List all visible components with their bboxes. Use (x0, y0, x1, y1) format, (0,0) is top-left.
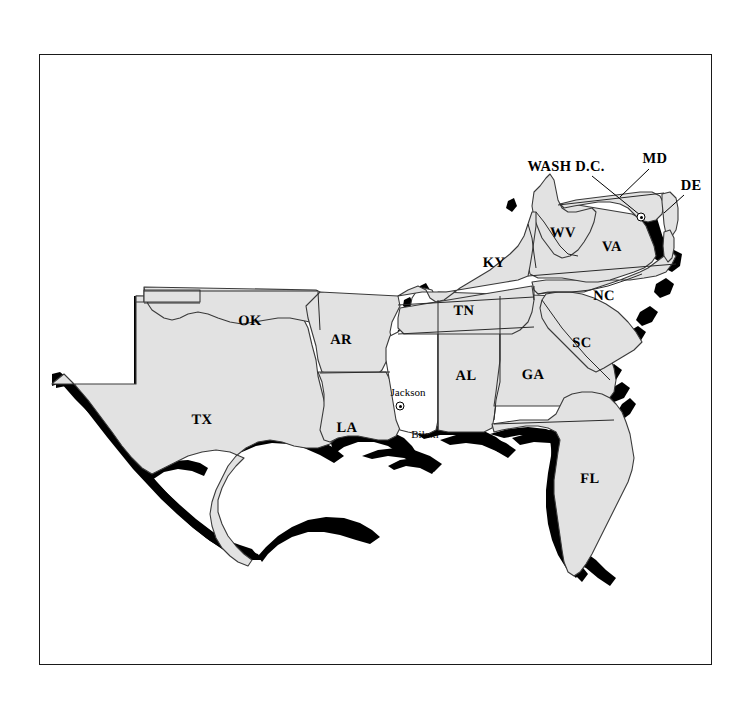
map-border-frame (39, 54, 712, 665)
callout-label-maryland: MD (643, 150, 668, 167)
callout-label-delaware: DE (681, 177, 702, 194)
state-label-kentucky: KY (483, 255, 506, 272)
state-label-texas: TX (192, 412, 213, 429)
state-label-west-virginia: WV (550, 225, 576, 242)
state-label-florida: FL (580, 471, 599, 488)
state-label-arkansas: AR (330, 332, 352, 349)
state-label-alabama: AL (456, 368, 477, 385)
callout-label-washington-dc: WASH D.C. (527, 158, 604, 175)
map-figure: OKARTXLATNKYALGAFLSCNCVAWVWASH D.C.MDDEJ… (0, 0, 742, 703)
city-marker-washington-dc-point (637, 213, 646, 222)
state-label-louisiana: LA (337, 420, 358, 437)
city-label-biloxi: Biloxi (411, 428, 439, 440)
city-marker-jackson (396, 402, 405, 411)
city-label-jackson: Jackson (391, 386, 426, 398)
state-label-virginia: VA (602, 239, 622, 256)
state-label-tennessee: TN (454, 303, 475, 320)
state-label-oklahoma: OK (238, 313, 261, 330)
state-label-south-carolina: SC (572, 335, 591, 352)
state-label-north-carolina: NC (593, 288, 615, 305)
state-label-georgia: GA (522, 367, 545, 384)
